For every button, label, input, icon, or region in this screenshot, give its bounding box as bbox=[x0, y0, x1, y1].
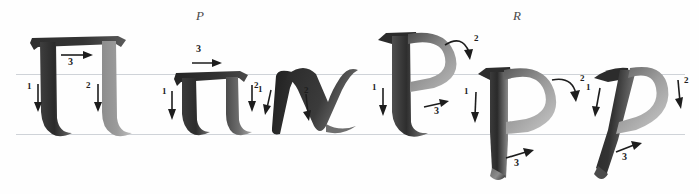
stroke-number-2-italic-rho: 2 bbox=[684, 76, 689, 85]
calligraphy-plate: P R bbox=[0, 0, 699, 194]
stroke-arrow-3-lowercase-rho bbox=[504, 146, 544, 166]
stroke-number-2-pi-uppercase: 2 bbox=[86, 81, 91, 90]
glyph-cell-lowercase-pi: 1 2 3 bbox=[160, 0, 270, 194]
stroke-number-3-lowercase-rho: 3 bbox=[514, 158, 519, 168]
stroke-number-1-pi-uppercase: 1 bbox=[27, 82, 32, 91]
stroke-number-3-italic-rho: 3 bbox=[622, 152, 627, 162]
stroke-number-2-lowercase-rho: 2 bbox=[580, 74, 585, 83]
glyph-cell-lowercase-rho: 1 2 3 bbox=[470, 0, 600, 194]
glyph-cell-italic-rho: 1 2 3 bbox=[592, 0, 699, 194]
stroke-number-1-lowercase-pi: 1 bbox=[162, 87, 167, 96]
cursive-pi-exit-flick bbox=[326, 124, 356, 133]
stroke-arrow-2-cursive-pi bbox=[294, 90, 320, 126]
stroke-number-3-uppercase-rho: 3 bbox=[434, 106, 439, 116]
stroke-arrow-3-uppercase-rho bbox=[422, 95, 458, 115]
stroke-arrow-3-pi-uppercase bbox=[59, 46, 103, 66]
stroke-number-1-lowercase-rho: 1 bbox=[464, 87, 469, 96]
glyph-cell-uppercase-pi: 1 2 3 bbox=[22, 0, 142, 194]
stroke-number-3-lowercase-pi: 3 bbox=[196, 44, 201, 54]
stroke-arrow-3-italic-rho bbox=[614, 140, 652, 160]
stroke-number-3-pi-uppercase: 3 bbox=[68, 57, 73, 67]
glyph-cell-cursive-pi: 1 2 bbox=[268, 0, 368, 194]
stroke-arrow-3-lowercase-pi bbox=[190, 54, 234, 72]
stroke-number-1-italic-rho: 1 bbox=[586, 83, 591, 92]
stroke-number-1-uppercase-rho: 1 bbox=[372, 83, 377, 92]
stroke-arrow-2-italic-rho bbox=[668, 76, 694, 114]
stroke-number-1-cursive-pi: 1 bbox=[258, 85, 263, 94]
pi-lowercase-left-stem bbox=[182, 78, 210, 135]
stroke-number-2-cursive-pi: 2 bbox=[304, 86, 309, 95]
